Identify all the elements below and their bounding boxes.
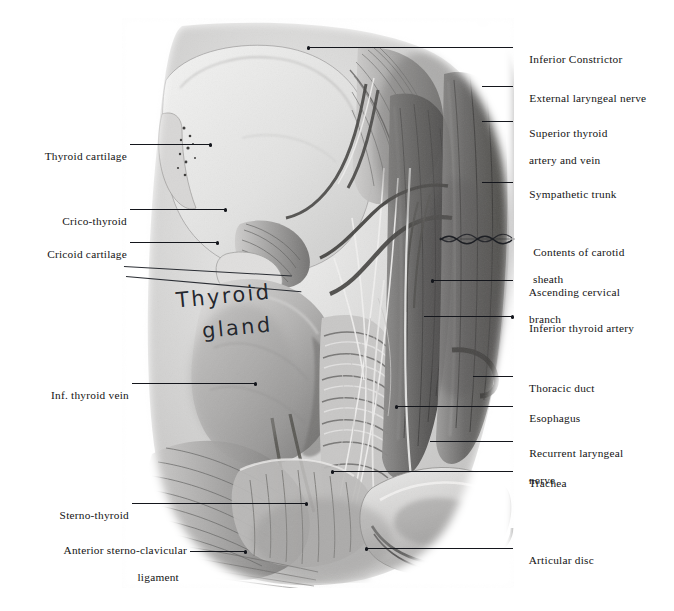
label-line-1: Contents of carotid bbox=[533, 246, 624, 258]
label-esophagus: Esophagus bbox=[517, 399, 581, 439]
leader-trachea bbox=[332, 471, 513, 472]
label-cricoid-cartilage: Cricoid cartilage bbox=[0, 235, 127, 275]
label-articular-disc: Articular disc bbox=[517, 541, 594, 581]
leader-esophagus bbox=[396, 406, 513, 407]
label-line-1: Inferior thyroid artery bbox=[529, 322, 634, 334]
label-sterno-thyroid: Sterno-thyroid bbox=[0, 496, 129, 536]
label-line-1: Anterior sterno-clavicular bbox=[64, 544, 188, 556]
label-sympathetic-trunk: Sympathetic trunk bbox=[517, 175, 617, 215]
label-line-1: Articular disc bbox=[529, 554, 594, 566]
leader-articular-disc bbox=[366, 548, 513, 549]
leader-inferior-constrictor bbox=[308, 47, 513, 48]
label-line-1: Trachea bbox=[529, 477, 567, 489]
leader-superior-thyroid-vessels bbox=[482, 121, 513, 122]
label-line-1: Superior thyroid bbox=[529, 127, 607, 139]
leader-sympathetic-trunk bbox=[482, 182, 513, 183]
leader-recurrent-laryngeal-nerve bbox=[430, 441, 513, 442]
label-inferior-thyroid-artery: Inferior thyroid artery bbox=[517, 309, 634, 349]
leader-ascending-cervical-branch bbox=[432, 280, 513, 281]
leader-cricoid-cartilage bbox=[130, 242, 218, 243]
label-line-2: artery and vein bbox=[517, 154, 608, 167]
leader-inf-thyroid-vein bbox=[132, 383, 256, 384]
thyroid-gland-handwritten-caption: Thyroid gland bbox=[176, 286, 273, 340]
leader-thyroid-cartilage bbox=[130, 144, 211, 145]
label-line-1: Recurrent laryngeal bbox=[529, 447, 623, 459]
leader-external-laryngeal-nerve bbox=[482, 86, 513, 87]
leader-inferior-thyroid-artery bbox=[424, 316, 513, 317]
label-line-1: Inf. thyroid vein bbox=[51, 389, 129, 401]
label-trachea: Trachea bbox=[517, 464, 567, 504]
label-line-1: Cricoid cartilage bbox=[47, 248, 127, 260]
label-external-laryngeal-nerve: External laryngeal nerve bbox=[517, 79, 646, 119]
label-line-1: Thoracic duct bbox=[529, 382, 595, 394]
label-line-1: Crico-thyroid bbox=[62, 215, 127, 227]
label-line-2: ligament bbox=[0, 571, 187, 584]
leader-anterior-sternoclavicular-ligament bbox=[190, 551, 246, 552]
label-thyroid-cartilage: Thyroid cartilage bbox=[0, 137, 127, 177]
anatomical-plate: Thyroid gland Inferior Constrictor Exter… bbox=[0, 0, 674, 611]
leader-sterno-thyroid bbox=[132, 503, 307, 504]
leader-thoracic-duct bbox=[473, 376, 513, 377]
label-anterior-sternoclavicular-ligament: Anterior sterno-clavicular ligament bbox=[0, 531, 187, 610]
label-inferior-constrictor: Inferior Constrictor bbox=[517, 40, 622, 80]
leader-crico-thyroid bbox=[130, 209, 226, 210]
label-line-1: Thyroid cartilage bbox=[45, 150, 127, 162]
caption-line-1: Thyroid bbox=[175, 281, 273, 311]
label-inf-thyroid-vein: Inf. thyroid vein bbox=[0, 376, 129, 416]
label-line-1: External laryngeal nerve bbox=[529, 92, 646, 104]
label-line-1: Ascending cervical bbox=[529, 286, 620, 298]
label-line-1: Sympathetic trunk bbox=[529, 188, 616, 200]
label-line-1: Inferior Constrictor bbox=[529, 53, 622, 65]
label-line-1: Sterno-thyroid bbox=[60, 509, 129, 521]
leader-carotid-sheath-contents bbox=[438, 233, 516, 245]
label-line-1: Esophagus bbox=[529, 412, 580, 424]
